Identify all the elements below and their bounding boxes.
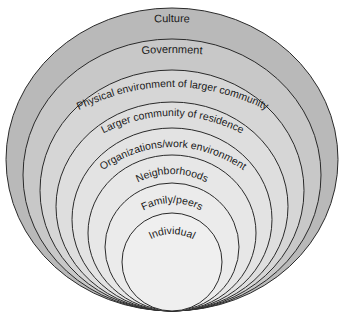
label-government: Government	[141, 43, 203, 56]
ring-individual	[122, 213, 222, 311]
label-culture: Culture	[154, 12, 190, 24]
ecological-model-diagram: Culture Government Physical environment …	[0, 0, 343, 316]
